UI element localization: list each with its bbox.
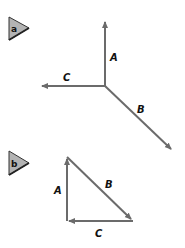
panel-a-tag-label: a [11,24,17,34]
panel-a-tag: a [9,17,29,40]
vector-b [67,157,131,219]
vector-b-label: B [105,179,113,190]
vector-c-label: C [95,228,103,239]
vector-c-label: C [63,72,71,83]
vector-b [105,86,171,149]
panel-a-vectors: A C B [42,22,171,149]
panel-b-vectors: A B C [53,157,133,239]
panel-b-tag: b [9,151,29,175]
vector-a-label: A [53,185,62,196]
vector-diagram: a A C B b A B C [0,0,185,248]
vector-a-label: A [109,52,118,63]
vector-b-label: B [137,104,145,115]
panel-b-tag-label: b [11,159,18,169]
